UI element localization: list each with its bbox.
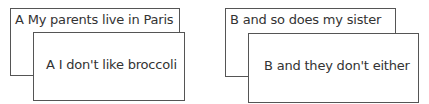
card-b-negative-response: B and they don't either	[248, 33, 419, 103]
card-a-statement-text: A My parents live in Paris	[15, 12, 173, 27]
card-b-negative-response-text: B and they don't either	[264, 58, 410, 73]
card-a-negative-statement-text: A I don't like broccoli	[46, 57, 177, 72]
card-b-response-text: B and so does my sister	[230, 12, 381, 27]
card-a-negative-statement: A I don't like broccoli	[33, 32, 185, 101]
